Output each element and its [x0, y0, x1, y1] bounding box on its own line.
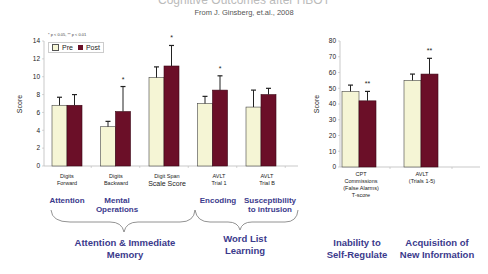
group-attention-memory: Attention & Immediate Memory: [60, 237, 190, 261]
label-cpt: CPT Commissions (False Alarms) T-score: [334, 171, 388, 199]
label-line: CPT: [334, 171, 388, 178]
group-word-list-learning: Word List Learning: [205, 233, 285, 257]
label-line: Inability to: [318, 237, 396, 249]
label-line: AVLT: [395, 171, 449, 178]
brace-word-list: [195, 210, 298, 230]
label-line: Learning: [205, 245, 285, 257]
group-acquisition: Acquisition of New Information: [396, 237, 478, 261]
label-line: Self-Regulate: [318, 249, 396, 261]
label-line: (False Alarms): [334, 185, 388, 192]
label-line: T-score: [334, 192, 388, 199]
group-self-regulate: Inability to Self-Regulate: [318, 237, 396, 261]
label-line: Memory: [60, 249, 190, 261]
label-line: Commissions: [334, 178, 388, 185]
label-line: (Trials 1-5): [395, 178, 449, 185]
label-line: Word List: [205, 233, 285, 245]
label-line: New Information: [396, 249, 478, 261]
label-avlt-trials: AVLT (Trials 1-5): [395, 171, 449, 185]
brace-attention-memory: [51, 210, 195, 232]
label-line: Attention & Immediate: [60, 237, 190, 249]
label-line: Acquisition of: [396, 237, 478, 249]
